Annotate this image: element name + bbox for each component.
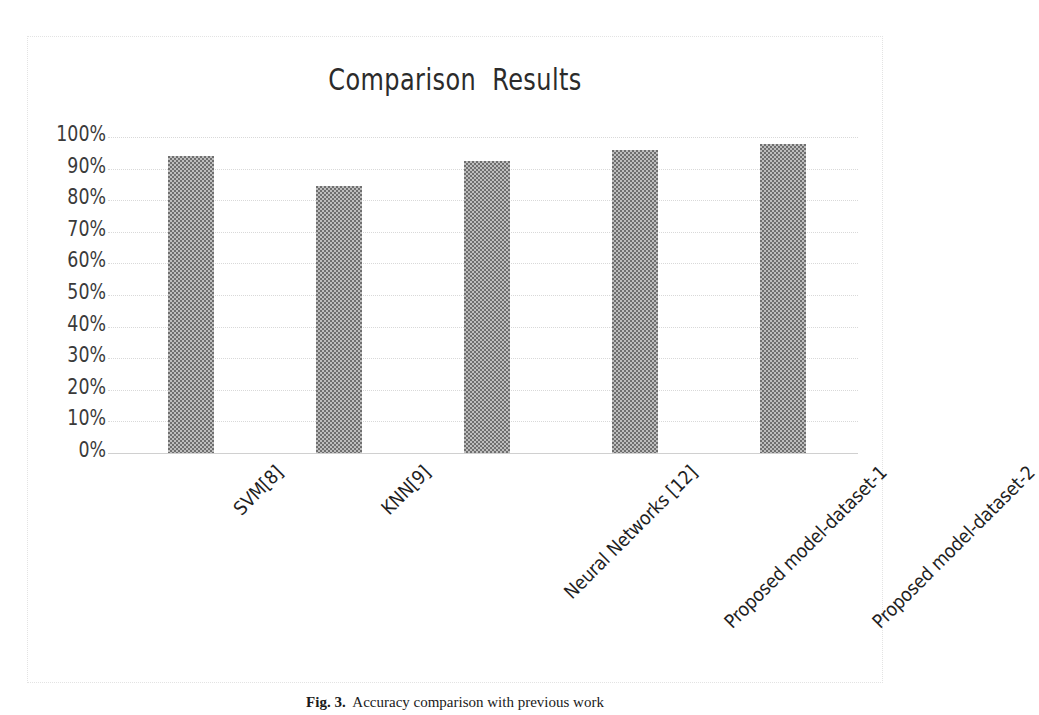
bar-neural-networks[interactable] (464, 161, 510, 453)
plot-area (108, 137, 858, 453)
chart-title: Comparison Results (88, 61, 822, 97)
y-tick-label: 90% (42, 154, 106, 178)
figure-caption: Fig. 3. Accuracy comparison with previou… (0, 694, 910, 711)
y-tick-label: 30% (42, 343, 106, 367)
y-tick-label: 70% (42, 217, 106, 241)
bar-knn[interactable] (316, 186, 362, 453)
chart-frame: Comparison Results 100% 90% 80% 70% 60% … (27, 36, 883, 683)
figure-caption-label: Fig. 3. (306, 694, 346, 710)
x-tick-label-proposed-model-dataset-2: Proposed model-dataset-2 (868, 461, 1039, 632)
axis-baseline (108, 453, 858, 454)
y-tick-label: 80% (42, 185, 106, 209)
bar-svm[interactable] (168, 156, 214, 453)
y-tick-label: 60% (42, 249, 106, 273)
figure-caption-text: Accuracy comparison with previous work (346, 694, 604, 710)
x-tick-label-proposed-model-dataset-1: Proposed model-dataset-1 (720, 461, 891, 632)
x-tick-label-neural-networks: Neural Networks [12] (559, 461, 701, 603)
x-tick-label-knn: KNN[9] (377, 461, 435, 519)
y-axis: 100% 90% 80% 70% 60% 50% 40% 30% 20% 10%… (28, 137, 106, 453)
bar-proposed-model-dataset-2[interactable] (760, 144, 806, 453)
x-tick-label-svm: SVM[8] (229, 461, 287, 519)
gridline (108, 137, 858, 138)
y-tick-label: 10% (42, 407, 106, 431)
y-tick-label: 50% (42, 280, 106, 304)
y-tick-label: 20% (42, 375, 106, 399)
y-tick-label: 100% (42, 122, 106, 146)
y-tick-label: 40% (42, 312, 106, 336)
x-axis: SVM[8] KNN[9] Neural Networks [12] Propo… (108, 461, 858, 681)
bar-proposed-model-dataset-1[interactable] (612, 150, 658, 453)
y-tick-label: 0% (42, 438, 106, 462)
